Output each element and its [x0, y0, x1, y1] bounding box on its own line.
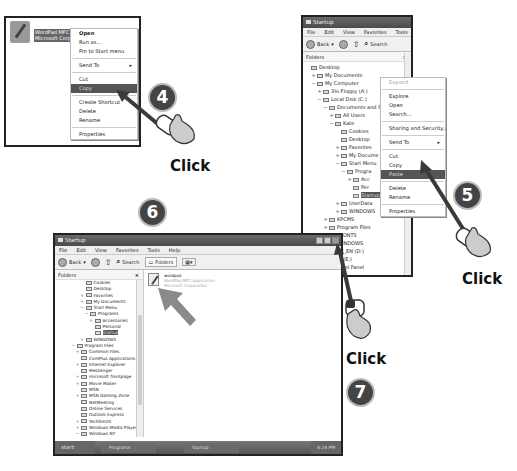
step6-pointer-arrow-icon	[158, 288, 196, 326]
step7-mouse-hand-icon	[346, 300, 371, 338]
annotation-overlay	[0, 0, 517, 471]
step4-mouse-hand-icon	[154, 113, 194, 144]
step5-mouse-hand-icon	[454, 226, 490, 257]
